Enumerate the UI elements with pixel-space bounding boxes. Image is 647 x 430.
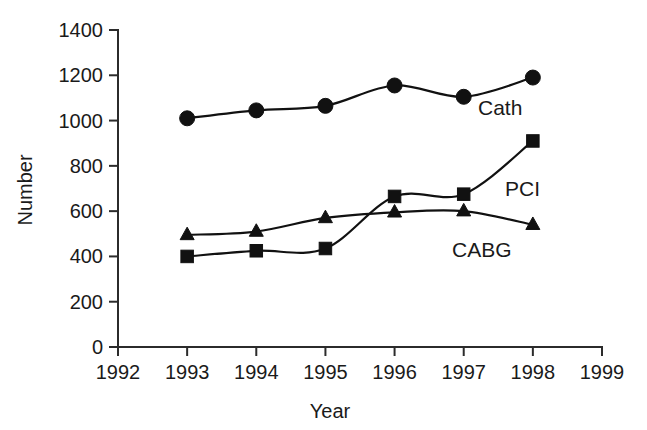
data-point-pci-1995 [319, 242, 332, 255]
data-point-cath-1996 [387, 78, 402, 93]
y-tick-label: 200 [70, 291, 103, 313]
x-tick-label: 1996 [372, 361, 417, 383]
data-point-pci-1994 [250, 245, 262, 258]
x-axis: 19921993199419951996199719981999 [96, 347, 625, 383]
y-tick-label: 1200 [59, 64, 104, 86]
data-point-pci-1997 [457, 188, 470, 201]
series-label-pci: PCI [505, 177, 540, 200]
data-point-cath-1995 [318, 98, 333, 113]
series-label-cath: Cath [478, 96, 522, 119]
y-tick-label: 1000 [59, 110, 104, 132]
y-tick-label: 0 [92, 336, 103, 358]
series-label-cabg: CABG [452, 238, 512, 261]
chart-canvas: 0200400600800100012001400 19921993199419… [0, 0, 647, 430]
x-tick-label: 1994 [234, 361, 279, 383]
x-tick-label: 1995 [303, 361, 348, 383]
line-chart: 0200400600800100012001400 19921993199419… [0, 0, 647, 430]
data-point-pci-1993 [181, 250, 194, 263]
data-point-cath-1997 [456, 89, 471, 104]
x-tick-label: 1997 [441, 361, 486, 383]
y-tick-label: 800 [70, 155, 103, 177]
data-point-cath-1994 [249, 103, 264, 118]
data-point-pci-1996 [388, 190, 401, 203]
x-tick-label: 1993 [165, 361, 210, 383]
y-tick-label: 400 [70, 245, 103, 267]
x-axis-title: Year [310, 400, 351, 422]
data-point-cabg-1993 [180, 227, 194, 240]
y-axis-title: Number [14, 154, 36, 225]
data-point-pci-1998 [527, 135, 540, 148]
y-tick-label: 600 [70, 200, 103, 222]
y-tick-label: 1400 [59, 19, 104, 41]
data-point-cath-1998 [525, 70, 540, 85]
data-point-cabg-1996 [388, 205, 402, 218]
x-tick-label: 1999 [580, 361, 625, 383]
data-point-cath-1993 [180, 111, 195, 126]
series-label-group: CathPCICABG [452, 96, 540, 261]
data-point-cabg-1997 [457, 203, 471, 216]
y-axis: 0200400600800100012001400 [59, 19, 119, 358]
x-tick-label: 1998 [511, 361, 556, 383]
x-tick-label: 1992 [96, 361, 141, 383]
